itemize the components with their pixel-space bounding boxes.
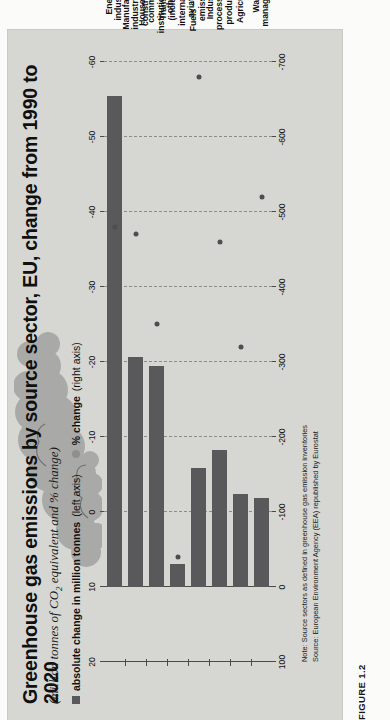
category-tick bbox=[146, 659, 147, 666]
y2-axis-tick-label: -20 bbox=[87, 356, 97, 368]
y-axis-tick-label: -100 bbox=[277, 503, 287, 520]
figure-caption: FIGURE 1.2 bbox=[356, 664, 367, 720]
gridline bbox=[104, 136, 272, 137]
y2-tick bbox=[100, 586, 104, 587]
legend-label-bold: absolute change in million tonnes bbox=[70, 522, 82, 691]
y-axis-tick-label: -700 bbox=[277, 53, 287, 70]
y-axis-tick-label: -600 bbox=[277, 128, 287, 145]
percent-change-dot bbox=[175, 555, 180, 560]
legend-item-percent-change: % change (right axis) bbox=[70, 342, 82, 458]
y2-axis-tick-label: -40 bbox=[87, 206, 97, 218]
y-axis-tick-label: -300 bbox=[277, 353, 287, 370]
category-tick bbox=[188, 659, 189, 666]
y-tick bbox=[272, 361, 276, 362]
y2-tick bbox=[100, 436, 104, 437]
percent-change-dot bbox=[154, 322, 159, 327]
gridline bbox=[104, 211, 272, 212]
plot-area: 1000-100-200-300-400-500-600-70020100-10… bbox=[104, 62, 272, 662]
percent-change-dot bbox=[196, 75, 201, 80]
bar bbox=[254, 499, 269, 588]
percent-change-dot bbox=[133, 232, 138, 237]
y2-axis-tick-label: -50 bbox=[87, 131, 97, 143]
source-line: Source: European Environment Agency (EEA… bbox=[311, 425, 322, 662]
y-axis-tick-label: -200 bbox=[277, 428, 287, 445]
category-tick bbox=[251, 659, 252, 666]
y-tick bbox=[272, 286, 276, 287]
y-tick bbox=[272, 61, 276, 62]
y-axis-tick-label: 0 bbox=[277, 585, 287, 590]
y2-axis-tick-label: -30 bbox=[87, 281, 97, 293]
gridline bbox=[104, 286, 272, 287]
legend-label-plain: (right axis) bbox=[70, 342, 82, 391]
y2-axis-tick-label: -10 bbox=[87, 431, 97, 443]
y-axis-tick-label: -400 bbox=[277, 278, 287, 295]
y2-axis-tick-label: 10 bbox=[87, 582, 97, 592]
category-tick bbox=[125, 659, 126, 666]
y2-tick bbox=[100, 136, 104, 137]
y2-axis-tick-label: -60 bbox=[87, 56, 97, 68]
y2-tick bbox=[100, 361, 104, 362]
percent-change-dot bbox=[259, 195, 264, 200]
y-axis-tick-label: 100 bbox=[277, 655, 287, 669]
y2-tick bbox=[100, 61, 104, 62]
subtitle-post: equivalent and % change) bbox=[46, 447, 61, 586]
y-tick bbox=[272, 436, 276, 437]
percent-change-dot bbox=[112, 225, 117, 230]
category-label: Agriculture bbox=[236, 0, 246, 36]
category-label: Waste management bbox=[252, 0, 271, 36]
chart-subtitle: (million tonnes of CO2 equivalent and % … bbox=[46, 44, 64, 704]
subtitle-pre: (million tonnes of CO bbox=[46, 591, 61, 704]
subtitle-subscript: 2 bbox=[54, 586, 64, 591]
percent-change-dot bbox=[238, 345, 243, 350]
figure-page: Greenhouse gas emissions by source secto… bbox=[0, 0, 390, 720]
y2-axis-tick-label: 20 bbox=[87, 657, 97, 667]
category-label: Industrial processes and product use bbox=[205, 0, 234, 36]
chart-notes: Note: Source sectors as defined in green… bbox=[300, 425, 321, 662]
bar bbox=[107, 96, 122, 587]
figure-container: Greenhouse gas emissions by source secto… bbox=[8, 30, 342, 720]
bar bbox=[233, 494, 248, 587]
legend-label-bold: % change bbox=[70, 396, 82, 445]
legend-item-absolute-change: absolute change in million tonnes (left … bbox=[70, 474, 82, 704]
percent-change-dot bbox=[217, 240, 222, 245]
bar bbox=[170, 565, 185, 588]
bar bbox=[191, 469, 206, 588]
y-tick bbox=[272, 586, 276, 587]
category-tick bbox=[209, 659, 210, 666]
category-tick bbox=[167, 659, 168, 666]
y-tick bbox=[272, 511, 276, 512]
y-axis-tick-label: -500 bbox=[277, 203, 287, 220]
y2-tick bbox=[100, 511, 104, 512]
bar bbox=[128, 357, 143, 587]
note-line: Note: Source sectors as defined in green… bbox=[300, 425, 311, 662]
y2-tick bbox=[100, 211, 104, 212]
gridline bbox=[104, 61, 272, 62]
bar bbox=[212, 451, 227, 588]
circle-marker-icon bbox=[72, 450, 80, 458]
y2-axis-tick-label: 0 bbox=[87, 510, 97, 515]
y-tick bbox=[272, 211, 276, 212]
y-tick bbox=[272, 136, 276, 137]
bar bbox=[149, 366, 164, 587]
chart-legend: absolute change in million tonnes (left … bbox=[70, 342, 82, 704]
legend-label-plain: (left axis) bbox=[70, 474, 82, 517]
square-marker-icon bbox=[72, 696, 80, 704]
y2-tick bbox=[100, 286, 104, 287]
y-tick bbox=[272, 661, 276, 662]
rotated-figure-frame: Greenhouse gas emissions by source secto… bbox=[0, 0, 390, 720]
category-tick bbox=[230, 659, 231, 666]
